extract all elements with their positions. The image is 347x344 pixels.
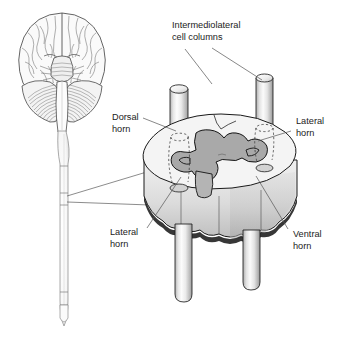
brain-inferior-view: [19, 13, 106, 132]
label-dorsal-horn: Dorsal horn: [112, 112, 141, 134]
label-line-2: horn: [293, 241, 311, 251]
column-rear-left-lower-cap: [170, 184, 188, 192]
spinal-cord-cross-section-disc: [143, 74, 297, 302]
label-intermediolateral-cell-columns: Intermediolateral cell columns: [172, 20, 243, 42]
label-line-1: Ventral: [293, 229, 322, 239]
label-lateral-horn-left: Lateral horn: [110, 227, 141, 249]
label-line-2: horn: [110, 239, 128, 249]
leader-intermediolateral-right: [212, 48, 262, 80]
label-line-2: cell columns: [172, 32, 223, 42]
column-front-left: [175, 224, 192, 302]
label-ventral-horn: Ventral horn: [293, 229, 324, 251]
label-lateral-horn-right: Lateral horn: [296, 116, 327, 138]
column-front-right-shaft: [243, 230, 260, 290]
magnification-callout: [67, 171, 150, 205]
label-line-1: Lateral: [296, 116, 324, 126]
label-line-1: Dorsal: [112, 112, 139, 122]
column-front-right: [243, 230, 260, 290]
conus-medullaris: [60, 305, 68, 322]
label-line-1: Intermediolateral: [172, 20, 240, 30]
callout-line-upper: [67, 171, 150, 196]
column-rear-left-cap: [170, 85, 188, 93]
spinal-cord-body: [58, 131, 69, 326]
label-line-2: horn: [296, 128, 314, 138]
brainstem-pons: [51, 56, 73, 82]
column-rear-right-lower-cap: [256, 164, 273, 172]
label-line-2: horn: [112, 124, 130, 134]
gray-matter-descending-ventral: [195, 171, 212, 198]
callout-line-lower: [67, 202, 150, 205]
spinal-cord-figure: Intermediolateral cell columns Dorsal ho…: [0, 0, 347, 344]
label-line-1: Lateral: [110, 227, 138, 237]
column-front-left-shaft: [175, 224, 192, 302]
diagram-canvas: Intermediolateral cell columns Dorsal ho…: [0, 0, 347, 344]
leader-intermediolateral-left: [185, 49, 212, 84]
spinal-cord: [58, 131, 69, 326]
